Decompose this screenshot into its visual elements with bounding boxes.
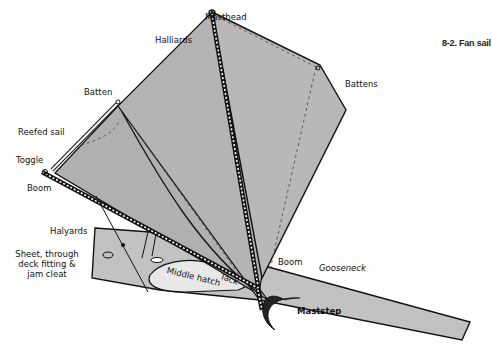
label-boom-right: Boom [278,258,303,268]
label-gooseneck: Gooseneck [319,264,366,274]
label-sheet: Sheet, through deck fitting & jam cleat [14,250,80,279]
label-boom-left: Boom [27,184,52,194]
label-halyards: Halyards [50,227,87,237]
label-reefed-sail: Reefed sail [18,128,65,138]
label-battens: Battens [345,80,378,90]
label-masthead: Masthead [205,13,247,23]
deck-oval [151,258,163,263]
fan-sail-diagram: 8-2. Fan sail Masthead Halliards Battens… [0,0,492,356]
label-sheet-line3: jam cleat [14,270,80,280]
label-maststep: Maststep [297,307,341,317]
label-toggle: Toggle [16,156,43,166]
deck [92,228,470,340]
label-halliards: Halliards [155,36,192,46]
label-batten: Batten [84,88,112,98]
figure-caption: 8-2. Fan sail [442,38,491,48]
fan-sail-illustration [0,0,492,356]
